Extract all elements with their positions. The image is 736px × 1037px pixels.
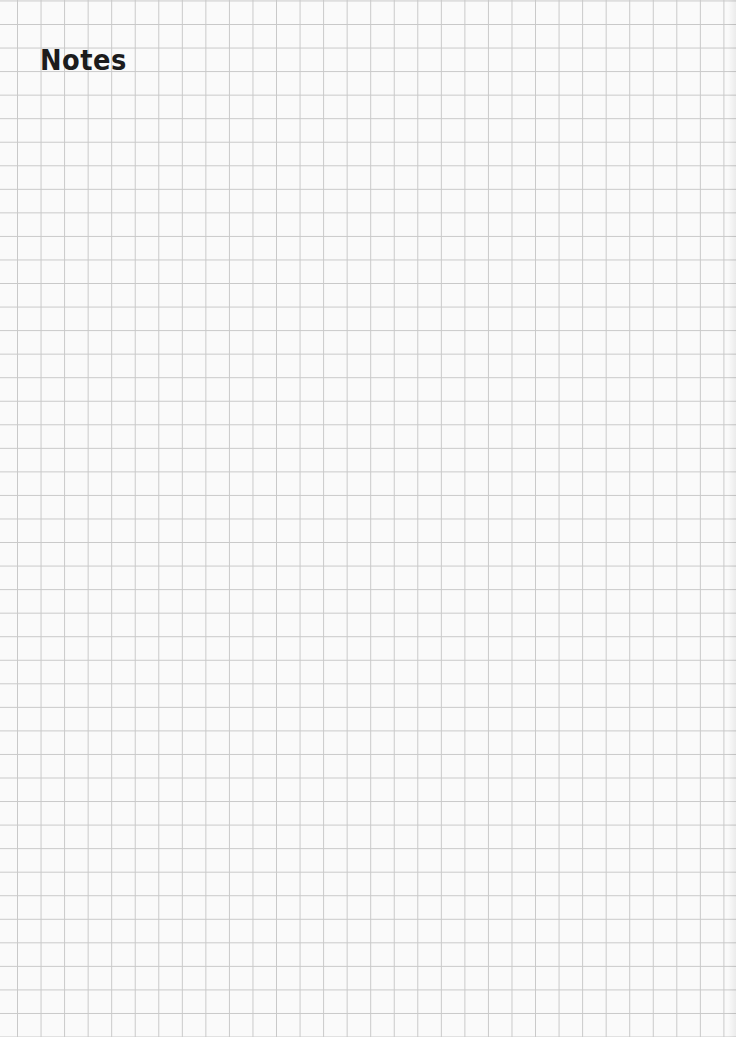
page-title: Notes (40, 44, 127, 78)
grid-paper-page: Notes (0, 0, 736, 1037)
page-edge-shadow (728, 0, 736, 1037)
